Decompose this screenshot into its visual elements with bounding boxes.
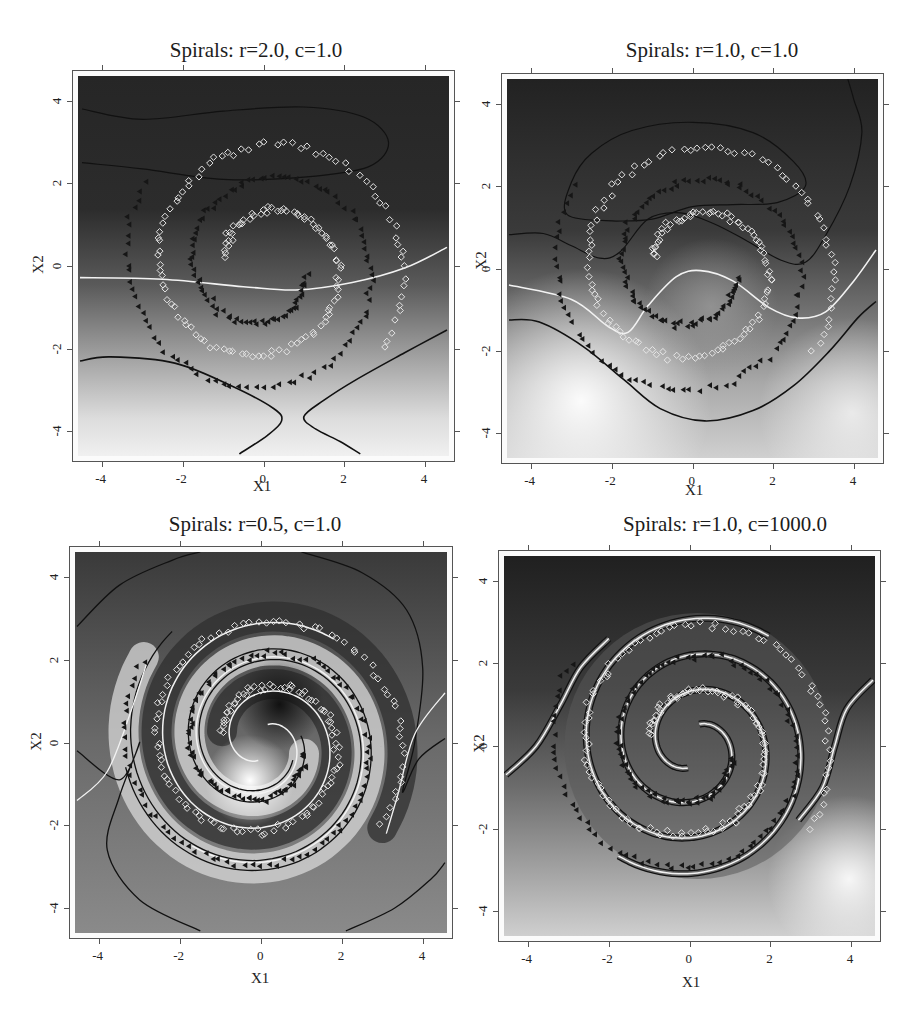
chart-panel-r1-c1000: Spirals: r=1.0, c=1000.0 -4-2024 -4-2024…: [0, 0, 919, 1011]
y-axis-label-text: X2: [471, 734, 487, 752]
y-tick-mark: [493, 581, 498, 582]
x-tick-label: 4: [847, 951, 854, 967]
x-tick-mark: [609, 942, 610, 947]
x-tick-mark-top: [609, 545, 610, 550]
y-tick-mark: [493, 911, 498, 912]
x-tick-label: -2: [602, 951, 613, 967]
x-tick-label: 2: [766, 951, 773, 967]
y-tick-mark: [493, 829, 498, 830]
x-tick-mark: [770, 942, 771, 947]
y-tick-mark-right: [881, 911, 886, 912]
y-tick-label: -2: [475, 822, 491, 836]
y-tick-label: 2: [475, 656, 491, 670]
x-tick-mark-top: [690, 545, 691, 550]
y-tick-label: 4: [475, 574, 491, 588]
x-tick-mark: [528, 942, 529, 947]
x-tick-mark: [690, 942, 691, 947]
y-tick-mark: [493, 663, 498, 664]
y-tick-mark-right: [881, 581, 886, 582]
y-axis-label: X2: [471, 734, 488, 752]
x-tick-mark-top: [770, 545, 771, 550]
x-axis-label: X1: [682, 974, 700, 991]
y-tick-mark-right: [881, 829, 886, 830]
plot-area: [504, 556, 875, 936]
x-tick-label: 0: [686, 951, 693, 967]
x-tick-mark: [851, 942, 852, 947]
chart-title: Spirals: r=1.0, c=1000.0: [575, 512, 875, 537]
x-tick-mark-top: [528, 545, 529, 550]
x-axis-label-text: X1: [682, 974, 700, 990]
y-tick-label: -4: [475, 904, 491, 918]
y-tick-mark-right: [881, 746, 886, 747]
x-tick-mark-top: [851, 545, 852, 550]
x-tick-label: -4: [521, 951, 532, 967]
y-tick-mark-right: [881, 663, 886, 664]
y-tick-mark: [493, 746, 498, 747]
